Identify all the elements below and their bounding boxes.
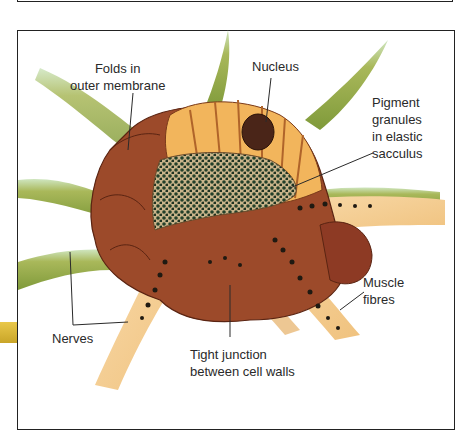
label-line: in elastic <box>372 128 423 145</box>
label-line: Muscle <box>363 274 404 291</box>
label-line: Pigment <box>372 94 423 111</box>
label-line: granules <box>372 111 423 128</box>
label-nerves: Nerves <box>52 330 93 347</box>
nucleus-shape <box>242 114 274 150</box>
label-pigment-granules: Pigment granules in elastic sacculus <box>372 94 423 162</box>
label-line: sacculus <box>372 145 423 162</box>
label-tight-junction: Tight junction between cell walls <box>190 346 295 380</box>
label-line: fibres <box>363 291 404 308</box>
label-line: outer membrane <box>70 77 165 94</box>
label-line: Folds in <box>70 60 165 77</box>
label-muscle-fibres: Muscle fibres <box>363 274 404 308</box>
label-line: Tight junction <box>190 346 295 363</box>
label-line: between cell walls <box>190 363 295 380</box>
label-nucleus: Nucleus <box>252 58 299 75</box>
label-folds-outer-membrane: Folds in outer membrane <box>70 60 165 94</box>
